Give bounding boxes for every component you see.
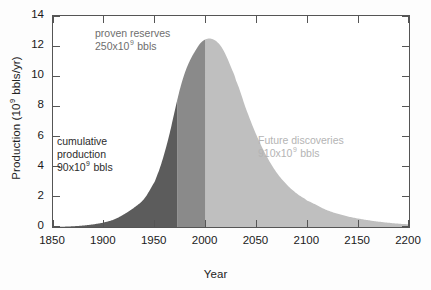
area-series-group bbox=[53, 39, 409, 227]
annotation-proven-reserves: proven reserves 250x109 bbls bbox=[95, 27, 170, 53]
x-tick-bottom-2000 bbox=[205, 220, 206, 227]
y-tick-left-2 bbox=[53, 196, 60, 197]
x-tick-top-2000 bbox=[205, 16, 206, 23]
annotation-proven-reserves-line1: proven reserves bbox=[95, 27, 170, 40]
y-tick-right-10 bbox=[402, 76, 409, 77]
x-tick-top-2050 bbox=[256, 16, 257, 23]
x-tick-bottom-2050 bbox=[256, 220, 257, 227]
annotation-future-line1: Future discoveries bbox=[258, 134, 344, 147]
y-tick-label-8: 8 bbox=[10, 99, 44, 111]
y-tick-left-8 bbox=[53, 106, 60, 107]
annotation-future-value: 910x10 bbox=[258, 147, 292, 159]
area-proven-reserves bbox=[177, 39, 205, 227]
annotation-future-unit: bbls bbox=[297, 147, 319, 159]
x-tick-top-2150 bbox=[358, 16, 359, 23]
y-tick-right-2 bbox=[402, 196, 409, 197]
annotation-proven-reserves-line2: 250x109 bbls bbox=[95, 40, 170, 53]
x-tick-bottom-2150 bbox=[358, 220, 359, 227]
y-tick-right-8 bbox=[402, 106, 409, 107]
annotation-cumulative-production: cumulative production 90x109 bbls bbox=[57, 135, 113, 173]
y-tick-right-4 bbox=[402, 166, 409, 167]
x-tick-top-1850 bbox=[52, 16, 53, 23]
plot-area: proven reserves 250x109 bbls cumulative … bbox=[52, 15, 410, 228]
annotation-cumulative-line2: production bbox=[57, 148, 113, 161]
y-tick-label-14: 14 bbox=[10, 9, 44, 21]
y-tick-label-10: 10 bbox=[10, 69, 44, 81]
area-future-discoveries bbox=[206, 39, 409, 227]
annotation-cumulative-unit: bbls bbox=[90, 161, 112, 173]
annotation-cumulative-value: 90x10 bbox=[57, 161, 86, 173]
y-axis-title: Production (109 bbls/yr) bbox=[6, 0, 26, 238]
x-tick-label-2200: 2200 bbox=[378, 235, 431, 247]
x-tick-top-2100 bbox=[307, 16, 308, 23]
y-tick-right-6 bbox=[402, 136, 409, 137]
x-tick-bottom-2100 bbox=[307, 220, 308, 227]
y-tick-left-10 bbox=[53, 76, 60, 77]
annotation-cumulative-line3: 90x109 bbls bbox=[57, 161, 113, 174]
y-tick-label-2: 2 bbox=[10, 190, 44, 202]
y-tick-label-4: 4 bbox=[10, 160, 44, 172]
y-tick-left-12 bbox=[53, 46, 60, 47]
x-tick-bottom-1950 bbox=[154, 220, 155, 227]
annotation-future-line2: 910x109 bbls bbox=[258, 147, 344, 160]
annotation-proven-value: 250x10 bbox=[95, 40, 129, 52]
x-tick-top-1900 bbox=[103, 16, 104, 23]
annotation-cumulative-line1: cumulative bbox=[57, 135, 113, 148]
x-tick-top-2200 bbox=[408, 16, 409, 23]
y-tick-left-14 bbox=[53, 15, 60, 16]
y-tick-label-0: 0 bbox=[10, 220, 44, 232]
x-axis-title: Year bbox=[0, 264, 431, 282]
x-tick-top-1950 bbox=[154, 16, 155, 23]
x-tick-bottom-1850 bbox=[52, 220, 53, 227]
annotation-proven-unit: bbls bbox=[134, 40, 156, 52]
y-tick-left-0 bbox=[53, 226, 60, 227]
y-tick-right-12 bbox=[402, 46, 409, 47]
chart-figure: Production (109 bbls/yr) 02468101214 pro… bbox=[0, 0, 431, 290]
x-axis-title-text: Year bbox=[204, 268, 228, 280]
x-tick-bottom-1900 bbox=[103, 220, 104, 227]
y-tick-label-6: 6 bbox=[10, 130, 44, 142]
y-tick-label-12: 12 bbox=[10, 39, 44, 51]
x-tick-bottom-2200 bbox=[408, 220, 409, 227]
annotation-future-discoveries: Future discoveries 910x109 bbls bbox=[258, 134, 344, 160]
